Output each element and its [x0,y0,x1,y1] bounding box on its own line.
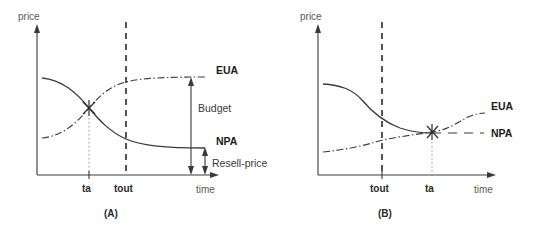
panel-b-x-axis-label: time [474,184,493,195]
panel-b-series-label-eua: EUA [491,100,514,112]
panel-b-eua-curve [323,113,485,152]
panel-a-caption: (A) [104,208,118,219]
panel-b-npa-curve [323,84,432,133]
panel-a-series-label-eua: EUA [216,64,239,76]
panel-b: price time tout ta EUA NPA (B) [272,0,550,231]
panel-b-tick-label-ta: ta [425,183,434,194]
panel-b-y-axis-label: price [300,11,322,22]
panel-a-budget-arrow [188,77,194,175]
panel-b-tick-label-tout: tout [370,183,390,194]
panel-a-tick-label-ta: ta [82,183,91,194]
panel-b-caption: (B) [378,208,392,219]
panel-a-npa-curve [42,78,205,148]
panel-b-series-label-npa: NPA [491,127,513,139]
panel-a-y-axis [34,24,40,175]
panel-a-measure-label-resell-price: Resell-price [212,157,268,169]
panel-a-y-axis-label: price [18,11,40,22]
panel-b-x-axis [318,172,496,178]
panel-a-resell-price-arrow [202,147,208,175]
panel-a: price time ta tout EUA NPA [0,0,278,231]
panel-b-y-axis [315,24,321,175]
panel-a-series-label-npa: NPA [216,135,238,147]
panel-a-x-axis-label: time [196,184,215,195]
figure-container: price time ta tout EUA NPA [0,0,550,231]
panel-a-measure-label-budget: Budget [198,102,231,114]
panel-b-crossing-marker [427,124,438,140]
panel-a-tick-label-tout: tout [114,183,134,194]
